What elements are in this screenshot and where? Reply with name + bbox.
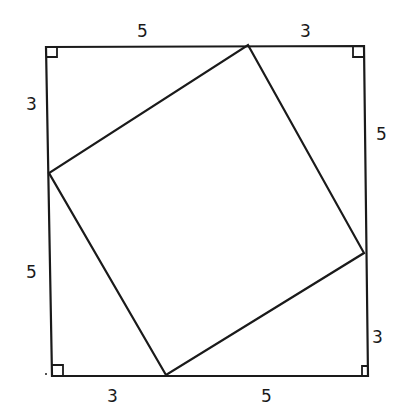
label-bottom-left-segment: 3 xyxy=(107,386,118,406)
label-bottom-right-segment: 5 xyxy=(261,386,272,406)
label-top-left-segment: 5 xyxy=(137,21,148,41)
right-angle-marker-top-left xyxy=(47,47,57,57)
right-angle-marker-bottom-left xyxy=(52,365,63,376)
right-angle-marker-top-right xyxy=(353,47,364,57)
label-top-right-segment: 3 xyxy=(300,21,311,41)
label-left-bottom-segment: 5 xyxy=(26,262,37,282)
diagram-canvas: 5 3 3 5 5 3 3 5 xyxy=(0,0,413,419)
label-right-bottom-segment: 3 xyxy=(372,327,383,347)
outer-square xyxy=(46,46,368,376)
label-left-top-segment: 3 xyxy=(26,94,37,114)
diagram-svg: 5 3 3 5 5 3 3 5 xyxy=(0,0,413,419)
stray-dot xyxy=(45,373,47,375)
inner-square xyxy=(49,45,364,375)
label-right-top-segment: 5 xyxy=(376,124,387,144)
